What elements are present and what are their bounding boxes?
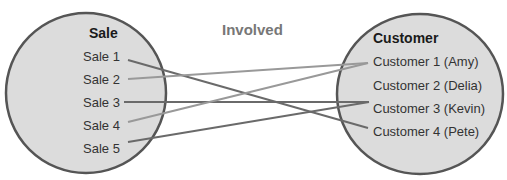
set-mapping-diagram: Involved Sale Sale 1 Sale 2 Sale 3 Sale … [0,0,507,180]
customer-item: Customer 3 (Kevin) [373,101,485,116]
customer-item: Customer 1 (Amy) [373,54,478,69]
customer-item: Customer 2 (Delia) [373,78,482,93]
sale-item: Sale 5 [83,141,120,156]
sale-item: Sale 2 [83,72,120,87]
sale-item: Sale 3 [83,95,120,110]
relationship-label: Involved [222,21,283,38]
sale-item: Sale 1 [83,49,120,64]
customer-item: Customer 4 (Pete) [373,124,479,139]
customer-set-title: Customer [373,30,439,46]
sale-set-title: Sale [89,25,118,41]
sale-item: Sale 4 [83,118,120,133]
